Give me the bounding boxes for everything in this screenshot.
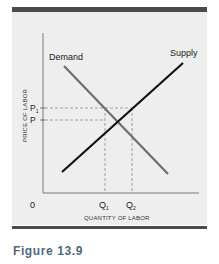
q2-label: Q2	[126, 200, 136, 211]
q1-label: Q1	[99, 200, 109, 211]
p-label: P	[30, 115, 36, 125]
x-axis-label: QUANTITY OF LABOR	[84, 215, 150, 221]
supply-curve	[62, 63, 183, 172]
y-axis-label: PRICE OF LABOR	[22, 88, 28, 142]
p1-label: P1	[30, 103, 39, 114]
figure-caption: Figure 13.9	[13, 244, 83, 258]
supply-demand-chart: Demand Supply P1 P 0 Q1 Q2 QUANTITY OF L…	[0, 0, 219, 264]
demand-label: Demand	[49, 52, 83, 62]
demand-curve	[64, 66, 168, 174]
supply-label: Supply	[170, 48, 198, 58]
origin-label: 0	[30, 200, 35, 210]
